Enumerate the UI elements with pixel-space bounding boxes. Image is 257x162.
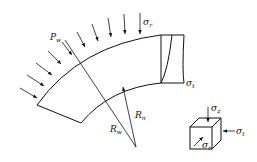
stress-diagram: Pw σr σt Rw Rn σz σt σr [0, 0, 257, 162]
label-cube-sigma-r: σr [202, 140, 212, 151]
label-pressure: Pw [49, 32, 62, 43]
label-inner-radius: Rn [134, 110, 146, 121]
stress-distribution-curve [161, 35, 184, 83]
label-cube-sigma-t: σt [236, 126, 245, 137]
radius-lines [65, 40, 136, 147]
curved-wall-segment [37, 35, 161, 123]
label-sigma-r-top: σr [143, 17, 153, 28]
label-outer-radius: Rw [109, 124, 123, 135]
label-cube-sigma-z: σz [211, 103, 221, 114]
pressure-arrows [20, 13, 140, 98]
label-sigma-t-right: σt [186, 78, 195, 89]
